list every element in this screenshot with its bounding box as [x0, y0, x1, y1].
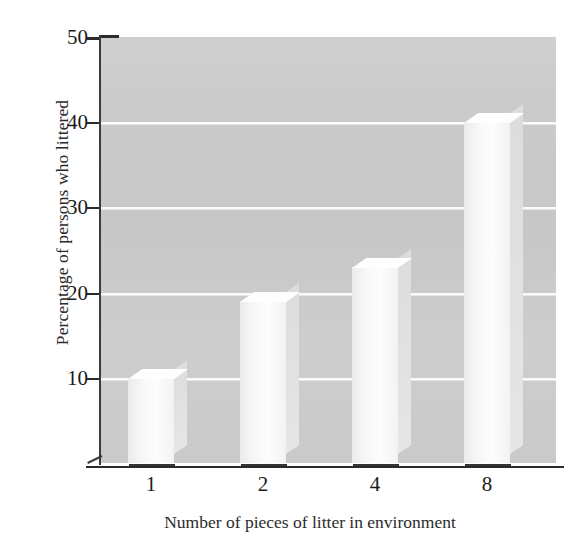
- y-tick-label-20: 20: [42, 281, 88, 306]
- y-axis-title: Percentage of persons who littered: [52, 33, 73, 413]
- bar-front-face: [352, 267, 398, 463]
- y-tick-label-30: 30: [42, 195, 88, 220]
- bar-front-face: [240, 301, 286, 463]
- bar-category-8: [464, 122, 510, 463]
- bar-front-face: [464, 122, 510, 463]
- y-tick-label-50: 50: [42, 25, 88, 50]
- y-tick-label-40: 40: [42, 110, 88, 135]
- plot-area: [100, 37, 556, 463]
- bar-category-1: [128, 378, 174, 463]
- bar-category-2: [240, 301, 286, 463]
- bar-side-face: [286, 283, 299, 454]
- x-tick-label-8: 8: [457, 472, 517, 497]
- x-tick-label-1: 1: [121, 472, 181, 497]
- y-tick-label-10: 10: [42, 366, 88, 391]
- bar-front-face: [128, 378, 174, 463]
- bar-chart: Percentage of persons who littered 50 40…: [0, 0, 578, 549]
- axis-top-corner: [99, 35, 119, 38]
- y-axis-line: [99, 35, 101, 465]
- bar-category-4: [352, 267, 398, 463]
- bar-side-face: [510, 104, 523, 454]
- x-tick-label-2: 2: [233, 472, 293, 497]
- bar-side-face: [398, 249, 411, 454]
- x-tick-label-4: 4: [345, 472, 405, 497]
- x-axis-title: Number of pieces of litter in environmen…: [60, 512, 560, 533]
- x-axis-line: [86, 466, 564, 468]
